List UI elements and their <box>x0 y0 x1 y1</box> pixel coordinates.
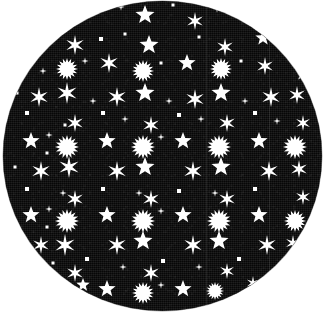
star-motif-five <box>250 206 267 222</box>
star-motif-six <box>296 189 310 205</box>
star-motif-sun <box>56 58 78 80</box>
star-motif-six <box>247 276 259 290</box>
star-motif-five <box>98 132 115 148</box>
star-motif-six <box>86 1 100 5</box>
star-pattern-svg <box>3 1 322 311</box>
star-motif-dot <box>237 257 241 261</box>
star-motif-dot <box>198 36 201 39</box>
star-motif-tiny <box>157 207 165 215</box>
star-motif-dot <box>124 33 127 36</box>
star-motif-dot <box>172 4 175 7</box>
star-motif-tiny <box>45 131 53 139</box>
star-motif-tiny <box>39 67 47 75</box>
star-motif-dot <box>177 189 181 193</box>
star-motif-six <box>262 87 279 107</box>
star-motif-tiny <box>81 57 89 65</box>
star-motif-tiny <box>157 133 165 141</box>
star-motif-dot <box>85 257 89 261</box>
star-motif-five <box>209 231 228 249</box>
star-motif-five <box>98 206 115 222</box>
star-motif-dot <box>64 12 67 15</box>
star-motif-six <box>67 264 83 282</box>
star-motif-tiny <box>197 115 205 123</box>
star-motif-five <box>174 132 191 148</box>
star-motif-dot <box>101 111 105 115</box>
star-motif-dot <box>240 60 243 63</box>
star-motif-six <box>30 87 47 107</box>
star-motif-six <box>55 234 74 256</box>
star-motif-six <box>108 235 125 255</box>
star-motif-dot <box>46 226 49 229</box>
star-motif-five <box>135 83 154 101</box>
star-motif-six <box>286 235 300 251</box>
star-motif-sun <box>132 60 154 82</box>
star-motif-five <box>22 132 39 148</box>
star-motif-tiny <box>89 97 97 105</box>
star-motif-six <box>143 264 159 282</box>
star-motif-five <box>174 280 191 296</box>
star-motif-tiny <box>195 263 203 271</box>
star-motif-five <box>255 30 270 44</box>
star-motif-dot <box>46 152 49 155</box>
star-motif-six <box>186 89 203 109</box>
star-motif-tiny <box>157 281 165 289</box>
star-motif-five <box>178 54 195 70</box>
star-motif-five <box>76 278 89 291</box>
star-motif-sun <box>206 282 224 300</box>
star-motif-sun <box>284 210 306 232</box>
star-motif-tiny <box>121 115 129 123</box>
star-motif-six <box>220 263 234 279</box>
star-motif-six <box>67 114 83 132</box>
star-motif-six <box>184 235 201 255</box>
star-motif-six <box>108 87 125 107</box>
fabric-swatch-circle[interactable] <box>3 1 322 311</box>
star-motif-six <box>265 10 277 24</box>
star-motif-tiny <box>165 97 173 105</box>
star-motif-six <box>219 190 235 208</box>
star-motif-dot <box>253 111 257 115</box>
swatch-stage <box>0 0 326 318</box>
star-motif-six <box>187 12 203 30</box>
star-motif-dot <box>48 35 51 38</box>
star-motif-tiny <box>135 189 143 197</box>
star-motif-six <box>296 115 310 131</box>
star-motif-dot <box>101 187 105 191</box>
star-motif-six <box>59 156 78 178</box>
star-motif-sun <box>207 135 231 159</box>
star-motif-six <box>31 1 47 8</box>
star-motif-sun <box>207 209 231 233</box>
star-motif-dot <box>161 259 165 263</box>
star-motif-five <box>135 5 154 23</box>
star-motif-six <box>257 57 273 75</box>
star-motif-dot <box>16 92 19 95</box>
star-motif-dot <box>64 124 67 127</box>
star-motif-six <box>217 38 233 56</box>
star-motif-dot <box>177 113 181 117</box>
star-motif-six <box>108 161 125 181</box>
star-motif-six <box>219 114 235 132</box>
star-motif-six <box>100 53 117 73</box>
star-motif-tiny <box>45 205 53 213</box>
star-motif-five <box>14 50 27 63</box>
star-motif-five <box>139 35 158 53</box>
star-motif-six <box>67 190 83 208</box>
star-motif-tiny <box>211 189 219 197</box>
star-motif-sun <box>55 209 79 233</box>
star-motif-dot <box>160 62 163 65</box>
star-motif-tiny <box>119 263 127 271</box>
star-motif-dot <box>52 262 55 265</box>
star-motif-six <box>143 190 159 208</box>
star-motif-sun <box>283 135 307 159</box>
star-motif-six <box>258 235 275 255</box>
star-motif-six <box>289 86 305 104</box>
star-motif-five <box>135 157 154 175</box>
star-print-pattern <box>3 1 322 311</box>
star-motif-dot <box>25 111 29 115</box>
star-motif-tiny <box>59 189 67 197</box>
star-motif-five <box>295 65 310 79</box>
star-motif-tiny <box>117 3 125 11</box>
star-motif-dot <box>14 166 17 169</box>
star-motif-sun <box>131 135 155 159</box>
star-motif-six <box>184 161 201 181</box>
star-motif-six <box>287 46 299 60</box>
